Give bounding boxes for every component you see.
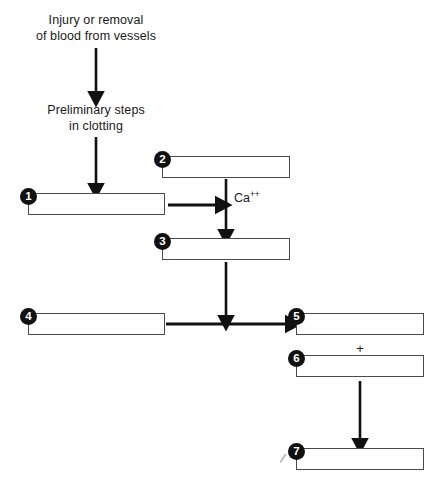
blank-answer-box-3[interactable] (162, 238, 290, 260)
plus-symbol: + (352, 342, 368, 355)
preliminary-caption-line2: in clotting (69, 119, 123, 133)
blank-answer-box-2[interactable] (162, 156, 290, 178)
box-number-badge-6: 6 (288, 350, 305, 367)
blank-answer-box-7[interactable] (296, 448, 424, 470)
clotting-cascade-diagram: Injury or removalof blood from vessels P… (0, 0, 446, 483)
box-number-badge-1: 1 (20, 188, 37, 205)
injury-caption-line1: Injury or removal (49, 13, 144, 27)
box-number-badge-4: 4 (20, 308, 37, 325)
preliminary-caption-line1: Preliminary steps (47, 103, 145, 117)
box-number-badge-5: 5 (288, 308, 305, 325)
blank-answer-box-6[interactable] (296, 355, 424, 377)
blank-answer-box-1[interactable] (28, 193, 165, 215)
blank-answer-box-5[interactable] (296, 313, 424, 335)
box-number-badge-3: 3 (154, 233, 171, 250)
calcium-symbol: Ca (234, 191, 250, 205)
box-number-badge-7: 7 (288, 443, 305, 460)
calcium-catalyst-label: Ca++ (234, 189, 259, 205)
preliminary-caption: Preliminary stepsin clotting (6, 102, 186, 134)
box-number-badge-2: 2 (154, 151, 171, 168)
calcium-charge: ++ (250, 189, 259, 199)
injury-caption-line2: of blood from vessels (36, 29, 156, 43)
injury-caption: Injury or removalof blood from vessels (6, 12, 186, 44)
blank-answer-box-4[interactable] (28, 313, 165, 335)
